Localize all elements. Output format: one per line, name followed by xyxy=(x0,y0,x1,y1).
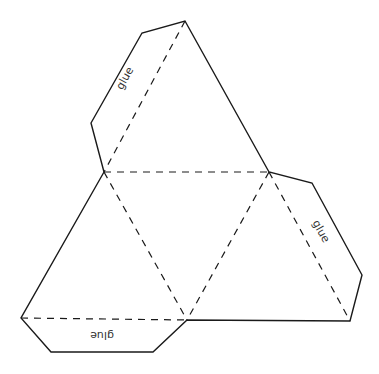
fold-center-right xyxy=(187,172,269,320)
fold-center-left xyxy=(104,172,187,320)
fold-top-flap xyxy=(104,21,185,172)
fold-lines xyxy=(21,21,350,321)
tetrahedron-net-diagram: glue glue glue xyxy=(0,0,379,374)
fold-bottom-flap xyxy=(21,318,187,320)
glue-label-bottom: glue xyxy=(90,329,114,342)
fold-right-flap xyxy=(269,172,350,321)
glue-label-right: glue xyxy=(310,218,333,245)
glue-label-top-left: glue xyxy=(113,65,136,92)
cut-outline xyxy=(21,21,362,352)
